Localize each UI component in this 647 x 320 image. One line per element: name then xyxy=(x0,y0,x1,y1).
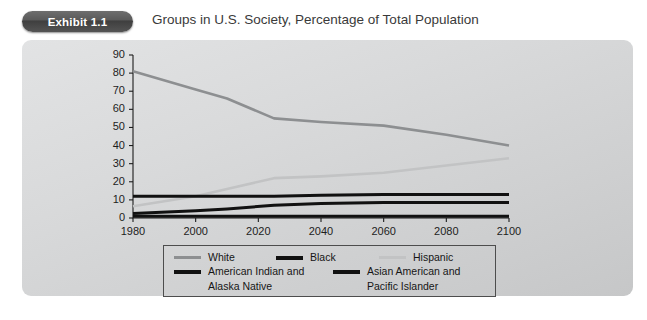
exhibit-badge-label: Exhibit 1.1 xyxy=(48,16,108,28)
legend-item-hispanic: Hispanic xyxy=(379,252,453,263)
y-axis-tick-label: 30 xyxy=(95,157,125,169)
legend-label: American Indian and xyxy=(208,266,304,277)
legend-item-white: White xyxy=(174,252,235,263)
exhibit-header: Exhibit 1.1 Groups in U.S. Society, Perc… xyxy=(0,0,647,40)
y-axis-tick-label: 80 xyxy=(95,66,125,78)
exhibit-badge: Exhibit 1.1 xyxy=(22,11,133,32)
x-axis-tick-label: 2040 xyxy=(296,225,346,237)
x-axis-tick-label: 2060 xyxy=(359,225,409,237)
legend-label: White xyxy=(208,252,235,263)
y-axis-tick-label: 0 xyxy=(95,211,125,223)
legend-label-continued: Pacific Islander xyxy=(367,280,438,292)
y-axis-tick-label: 40 xyxy=(95,139,125,151)
legend-label: Black xyxy=(310,252,336,263)
legend-swatch xyxy=(174,270,201,274)
x-axis-tick-label: 2020 xyxy=(233,225,283,237)
y-axis-tick-label: 60 xyxy=(95,102,125,114)
legend-swatch xyxy=(276,256,303,260)
legend-swatch xyxy=(174,256,201,259)
legend-item-black: Black xyxy=(276,252,336,263)
chart-panel: 0102030405060708090198020002020204020602… xyxy=(22,40,633,296)
legend-label: Hispanic xyxy=(413,252,453,263)
legend-label: Asian American and xyxy=(367,266,460,277)
y-axis-tick-label: 10 xyxy=(95,193,125,205)
y-axis-tick-label: 70 xyxy=(95,84,125,96)
legend-item-asian-american: Asian American and xyxy=(333,266,460,277)
chart-legend: WhiteBlackHispanicAmerican Indian andAla… xyxy=(163,245,496,297)
legend-item-american-indian: American Indian and xyxy=(174,266,304,277)
x-axis-tick-label: 2080 xyxy=(421,225,471,237)
x-axis-tick-label: 1980 xyxy=(108,225,158,237)
y-axis-tick-label: 90 xyxy=(95,48,125,60)
exhibit-title: Groups in U.S. Society, Percentage of To… xyxy=(152,12,479,27)
y-axis-tick-label: 20 xyxy=(95,175,125,187)
y-axis-tick-label: 50 xyxy=(95,120,125,132)
legend-label-continued: Alaska Native xyxy=(208,280,272,292)
x-axis-tick-label: 2100 xyxy=(484,225,534,237)
legend-swatch xyxy=(379,256,406,259)
exhibit-figure: Exhibit 1.1 Groups in U.S. Society, Perc… xyxy=(0,0,647,320)
legend-swatch xyxy=(333,270,360,274)
x-axis-tick-label: 2000 xyxy=(171,225,221,237)
